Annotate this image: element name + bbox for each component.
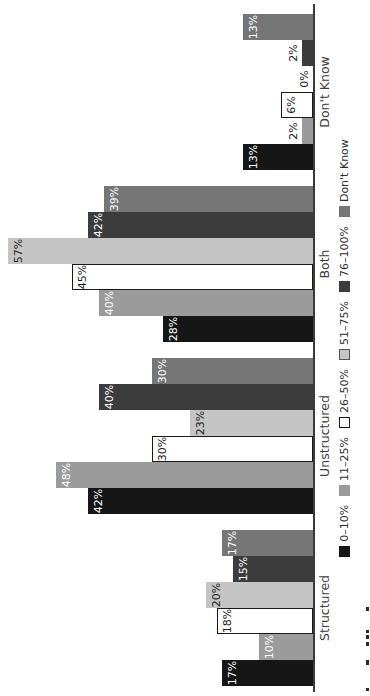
value-label-don-t-know-11-25: 2% — [287, 118, 300, 144]
value-label-both-51-75: 57% — [12, 238, 25, 264]
legend-label-0-10: 0–10% — [338, 505, 351, 542]
value-label-structured-don-t-know: 17% — [226, 530, 239, 556]
value-label-unstructured-51-75: 23% — [194, 410, 207, 436]
rotated-chart: 17%10%18%20%15%17%42%48%30%23%40%30%28%4… — [0, 0, 370, 696]
caption-fragment-mark — [366, 607, 369, 611]
legend-swatch-0-10 — [339, 546, 350, 557]
bar-unstructured-76-100 — [99, 384, 313, 410]
category-axis-line — [313, 4, 315, 692]
legend-swatch-76-100 — [339, 281, 350, 292]
legend-item-don-t-know: Don't Know — [338, 139, 351, 217]
value-label-don-t-know-76-100: 2% — [287, 40, 300, 66]
value-label-unstructured-don-t-know: 30% — [156, 358, 169, 384]
bar-both-76-100 — [88, 212, 313, 238]
value-label-unstructured-0-10: 42% — [92, 488, 105, 514]
legend-swatch-11-25 — [339, 485, 350, 496]
legend-item-76-100: 76–100% — [338, 226, 351, 292]
category-label-structured: Structured — [317, 528, 332, 688]
value-label-both-26-50: 45% — [76, 264, 89, 290]
legend-label-26-50: 26–50% — [338, 369, 351, 413]
value-label-unstructured-11-25: 48% — [60, 462, 73, 488]
bar-both-51-75 — [8, 238, 313, 264]
value-label-structured-11-25: 10% — [263, 634, 276, 660]
bar-unstructured-0-10 — [88, 488, 313, 514]
legend-label-11-25: 11–25% — [338, 437, 351, 481]
legend: 0–10%11–25%26–50%51–75%76–100%Don't Know — [338, 0, 351, 696]
legend-item-51-75: 51–75% — [338, 301, 351, 360]
caption-fragment-mark — [366, 642, 369, 646]
value-label-unstructured-26-50: 30% — [156, 436, 169, 462]
caption-fragment-mark — [366, 635, 369, 639]
category-label-unstructured: Unstructured — [317, 356, 332, 516]
value-label-don-t-know-26-50: 6% — [285, 92, 298, 118]
legend-label-76-100: 76–100% — [338, 226, 351, 277]
value-label-both-don-t-know: 39% — [108, 186, 121, 212]
category-label-both: Both — [317, 184, 332, 344]
value-label-structured-26-50: 18% — [221, 608, 234, 634]
value-label-unstructured-76-100: 40% — [103, 384, 116, 410]
legend-swatch-don-t-know — [339, 206, 350, 217]
bar-unstructured-don-t-know — [152, 358, 313, 384]
value-label-structured-0-10: 17% — [226, 660, 239, 686]
bar-unstructured-26-50 — [152, 436, 313, 462]
value-label-don-t-know-51-75: 0% — [298, 66, 311, 92]
figure-canvas: 17%10%18%20%15%17%42%48%30%23%40%30%28%4… — [0, 0, 370, 696]
bar-both-0-10 — [163, 316, 313, 342]
bar-both-11-25 — [99, 290, 313, 316]
legend-swatch-26-50 — [339, 417, 350, 428]
value-label-both-11-25: 40% — [103, 290, 116, 316]
bar-unstructured-11-25 — [56, 462, 313, 488]
value-label-both-76-100: 42% — [92, 212, 105, 238]
legend-label-don-t-know: Don't Know — [338, 139, 351, 202]
plot-area: 17%10%18%20%15%17%42%48%30%23%40%30%28%4… — [0, 0, 370, 696]
legend-item-11-25: 11–25% — [338, 437, 351, 496]
legend-label-51-75: 51–75% — [338, 301, 351, 345]
legend-item-0-10: 0–10% — [338, 505, 351, 557]
category-label-don-t-know: Don't Know — [317, 12, 332, 172]
caption-fragment-mark — [366, 630, 369, 633]
bar-both-don-t-know — [104, 186, 313, 212]
legend-swatch-51-75 — [339, 349, 350, 360]
bar-don-t-know-76-100 — [302, 40, 313, 66]
value-label-structured-51-75: 20% — [210, 582, 223, 608]
caption-fragment-mark — [366, 688, 369, 691]
value-label-both-0-10: 28% — [167, 316, 180, 342]
bar-don-t-know-11-25 — [302, 118, 313, 144]
value-label-don-t-know-0-10: 13% — [247, 144, 260, 170]
value-label-don-t-know-don-t-know: 13% — [247, 14, 260, 40]
bar-both-26-50 — [72, 264, 313, 290]
caption-fragment-mark — [366, 660, 369, 665]
bar-unstructured-51-75 — [190, 410, 313, 436]
value-label-structured-76-100: 15% — [237, 556, 250, 582]
legend-item-26-50: 26–50% — [338, 369, 351, 428]
